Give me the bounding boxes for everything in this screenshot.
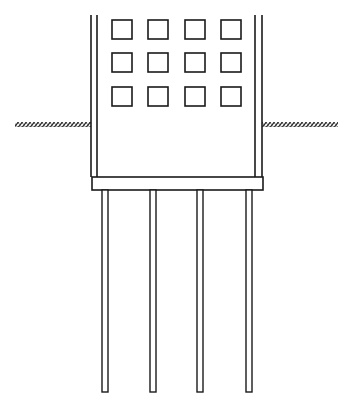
window-r3-c3 xyxy=(185,87,205,106)
pile-1 xyxy=(102,190,108,392)
window-r2-c1 xyxy=(112,53,132,72)
pile-3 xyxy=(197,190,203,392)
window-r1-c4 xyxy=(221,20,241,39)
window-r3-c2 xyxy=(148,87,168,106)
ground-level xyxy=(15,122,338,127)
ground-hatch-right xyxy=(262,122,338,127)
window-r1-c1 xyxy=(112,20,132,39)
pile-2 xyxy=(150,190,156,392)
diagram-canvas xyxy=(0,0,357,393)
window-r2-c4 xyxy=(221,53,241,72)
pile-cap xyxy=(92,177,263,190)
window-r2-c2 xyxy=(148,53,168,72)
piles xyxy=(102,190,252,392)
window-r3-c1 xyxy=(112,87,132,106)
window-r1-c2 xyxy=(148,20,168,39)
pile-foundation-diagram: Building on pile foundation xyxy=(0,0,357,393)
window-r2-c3 xyxy=(185,53,205,72)
ground-hatch-left xyxy=(15,122,91,127)
window-r3-c4 xyxy=(221,87,241,106)
pile-4 xyxy=(246,190,252,392)
window-r1-c3 xyxy=(185,20,205,39)
pile-cap-slab xyxy=(92,177,263,190)
windows xyxy=(112,20,241,106)
